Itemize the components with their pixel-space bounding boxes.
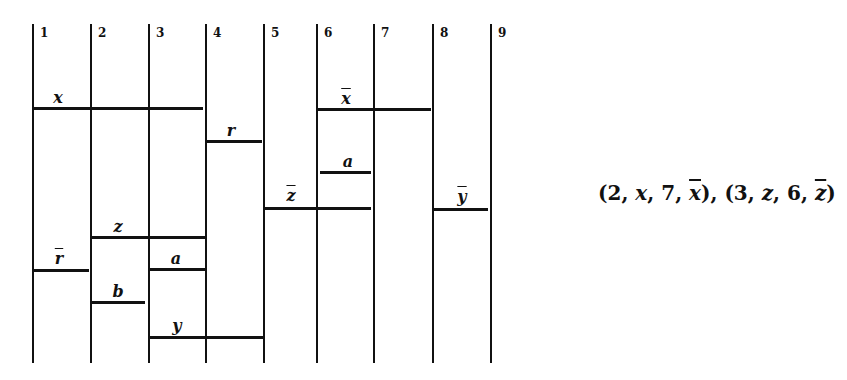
segment-label-r-bar: r (55, 251, 63, 267)
segment-y (149, 336, 264, 339)
column-line-5 (263, 24, 265, 363)
segment-b (91, 301, 145, 304)
segment-r (206, 140, 262, 143)
segment-label-y: y (172, 318, 181, 334)
tuple-expression: (2, x, 7, x), (3, z, 6, z) (598, 181, 836, 205)
column-number-8: 8 (440, 26, 448, 40)
column-line-8 (432, 24, 434, 363)
tuple-1-d: x (689, 181, 701, 205)
segment-label-y-bar: y (457, 189, 466, 205)
segment-r-bar (33, 269, 89, 272)
tuple-1-a: 2 (607, 181, 621, 205)
column-number-7: 7 (381, 26, 389, 40)
segment-a (149, 268, 205, 271)
segment-a (320, 171, 371, 174)
column-number-6: 6 (324, 26, 332, 40)
column-number-1: 1 (40, 26, 48, 40)
segment-label-z: z (113, 219, 122, 235)
segment-x (33, 107, 203, 110)
segment-z-bar (264, 207, 371, 210)
paren-open-2: ( (724, 181, 733, 205)
column-line-1 (32, 24, 34, 363)
column-line-6 (316, 24, 318, 363)
column-number-4: 4 (213, 26, 221, 40)
segment-z (91, 236, 205, 239)
column-line-2 (90, 24, 92, 363)
segment-label-x-bar: x (341, 91, 351, 107)
column-line-9 (490, 24, 492, 363)
column-number-2: 2 (98, 26, 106, 40)
column-line-7 (373, 24, 375, 363)
tuple-2-d: z (815, 181, 826, 205)
tuple-1-c: 7 (661, 181, 675, 205)
tuple-1-b: x (635, 181, 647, 205)
column-line-4 (205, 24, 207, 363)
tuple-2-c: 6 (787, 181, 801, 205)
segment-label-x: x (53, 90, 63, 106)
segment-y-bar (433, 208, 488, 211)
segment-label-a: a (171, 251, 181, 267)
segment-label-b: b (112, 284, 123, 300)
segment-x-bar (317, 108, 431, 111)
column-line-3 (148, 24, 150, 363)
segment-label-a: a (343, 154, 353, 170)
column-number-3: 3 (156, 26, 164, 40)
segment-label-z-bar: z (286, 188, 295, 204)
tuple-2-b: z (762, 181, 773, 205)
column-number-9: 9 (498, 26, 506, 40)
tuple-2-a: 3 (734, 181, 748, 205)
column-number-5: 5 (271, 26, 279, 40)
segment-label-r: r (227, 123, 235, 139)
